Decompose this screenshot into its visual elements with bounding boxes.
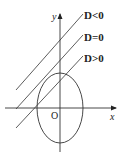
label-d-zero: D=0 (84, 31, 104, 43)
ellipse-line-position-diagram: D<0 D=0 D>0 y x O (0, 0, 124, 164)
y-axis-label: y (51, 11, 57, 22)
line-d-positive (16, 56, 83, 128)
line-d-zero (16, 35, 83, 109)
label-d-positive: D>0 (84, 52, 104, 64)
origin-label: O (51, 110, 58, 121)
x-axis-label: x (109, 111, 115, 122)
label-d-negative: D<0 (84, 9, 104, 21)
